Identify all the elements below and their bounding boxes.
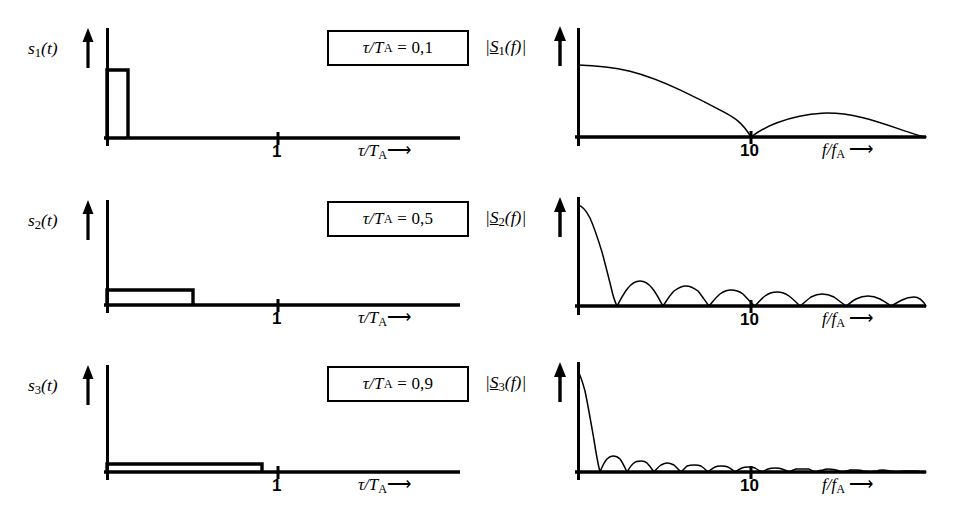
x-axis-label: f/fA ⟶	[822, 310, 872, 329]
pulse-waveform	[107, 290, 193, 305]
y-axis-label: s2(t)	[28, 212, 58, 232]
frequency-domain-plot-2	[484, 175, 967, 350]
frequency-domain-panel-2: |S2(f)| 10 f/fA ⟶	[484, 175, 967, 350]
time-domain-panel-3: s3(t) 1 τ/TA⟶ τ/TA = 0,9	[0, 350, 484, 525]
y-axis-label: |S2(f)|	[485, 209, 526, 229]
x-axis-label: τ/TA⟶	[358, 142, 410, 161]
parameter-box: τ/TA = 0,1	[327, 30, 469, 66]
parameter-box: τ/TA = 0,9	[327, 366, 469, 402]
y-axis-label: s1(t)	[28, 40, 58, 60]
frequency-domain-panel-3: |S3(f)| 10 f/fA ⟶	[484, 350, 967, 525]
x-axis-tick-label: 1	[272, 477, 281, 494]
figure-root: s1(t) 1 τ/TA⟶ τ/TA = 0,1	[0, 0, 967, 525]
pulse-waveform	[107, 70, 128, 138]
y-axis-arrow-icon	[554, 197, 566, 237]
y-axis-arrow-icon	[83, 28, 94, 68]
frequency-domain-plot-1	[484, 0, 967, 175]
y-axis-arrow-icon	[554, 26, 566, 66]
spectrum-curve	[578, 205, 926, 306]
x-axis-label: f/fA ⟶	[822, 141, 872, 160]
x-axis-tick-label: 10	[740, 477, 759, 494]
figure-row-1: s1(t) 1 τ/TA⟶ τ/TA = 0,1	[0, 0, 967, 175]
x-axis-label: f/fA ⟶	[822, 476, 872, 495]
spectrum-curve	[578, 372, 926, 472]
parameter-box: τ/TA = 0,5	[327, 201, 469, 237]
x-axis-label: τ/TA⟶	[358, 476, 410, 495]
figure-row-3: s3(t) 1 τ/TA⟶ τ/TA = 0,9 |S	[0, 350, 967, 525]
spectrum-curve	[578, 65, 926, 137]
frequency-domain-plot-3	[484, 350, 967, 525]
x-axis-tick-label: 10	[740, 142, 759, 159]
time-domain-panel-1: s1(t) 1 τ/TA⟶ τ/TA = 0,1	[0, 0, 484, 175]
x-axis-tick-label: 1	[272, 310, 281, 327]
frequency-domain-panel-1: |S1(f)| 10 f/fA ⟶	[484, 0, 967, 175]
y-axis-arrow-icon	[554, 362, 566, 402]
time-domain-plot-1	[0, 0, 484, 175]
x-axis-tick-label: 1	[272, 143, 281, 160]
y-axis-arrow-icon	[83, 365, 94, 405]
x-axis-tick-label: 10	[740, 311, 759, 328]
y-axis-arrow-icon	[83, 200, 94, 240]
y-axis-label: s3(t)	[28, 377, 58, 397]
y-axis-label: |S3(f)|	[485, 374, 526, 394]
figure-row-2: s2(t) 1 τ/TA⟶ τ/TA = 0,5 |S	[0, 175, 967, 350]
x-axis-label: τ/TA⟶	[358, 309, 410, 328]
time-domain-panel-2: s2(t) 1 τ/TA⟶ τ/TA = 0,5	[0, 175, 484, 350]
y-axis-label: |S1(f)|	[485, 38, 526, 58]
